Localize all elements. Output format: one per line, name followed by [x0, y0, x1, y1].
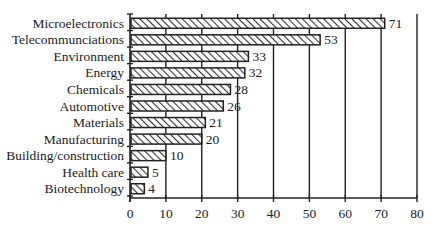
category-label: Environment: [54, 49, 125, 64]
value-label: 32: [249, 65, 262, 80]
category-label: Chemicals: [67, 82, 124, 97]
category-label: Manufacturing: [44, 132, 124, 147]
horizontal-bar-chart: MicroelectronicsTelecommunciationsEnviro…: [0, 0, 434, 233]
bar: [131, 101, 223, 111]
value-label: 26: [227, 99, 241, 114]
x-tick-label: 30: [231, 206, 245, 221]
x-tick-label: 70: [374, 206, 388, 221]
bar: [131, 184, 144, 194]
value-label: 28: [234, 82, 248, 97]
value-label: 71: [389, 16, 403, 31]
bar: [131, 118, 205, 128]
x-tick-label: 10: [159, 206, 173, 221]
category-label: Building/construction: [6, 148, 124, 163]
bar: [131, 51, 248, 61]
x-tick-label: 20: [195, 206, 209, 221]
bar: [131, 151, 166, 161]
category-label: Materials: [73, 115, 124, 130]
category-label: Microelectronics: [33, 16, 124, 31]
bars: [131, 18, 385, 193]
category-label: Health care: [62, 165, 124, 180]
category-label: Biotechnology: [45, 181, 125, 196]
value-label: 4: [148, 181, 155, 196]
bar: [131, 68, 245, 78]
bar: [131, 167, 148, 177]
value-label: 5: [152, 165, 159, 180]
x-tick-label: 60: [339, 206, 353, 221]
x-tick-label: 80: [410, 206, 424, 221]
x-tick-label: 50: [303, 206, 317, 221]
x-tick-labels: 01020304050607080: [127, 206, 424, 221]
value-label: 33: [252, 49, 266, 64]
value-label: 21: [209, 115, 223, 130]
value-label: 20: [206, 132, 220, 147]
category-labels: MicroelectronicsTelecommunciationsEnviro…: [6, 16, 124, 196]
bar: [131, 18, 385, 28]
value-label: 10: [170, 148, 184, 163]
value-label: 53: [324, 32, 338, 47]
category-label: Energy: [85, 65, 124, 80]
category-label: Automotive: [60, 99, 125, 114]
bar: [131, 35, 320, 45]
x-tick-label: 0: [127, 206, 134, 221]
category-label: Telecommunciations: [12, 32, 124, 47]
bar: [131, 134, 202, 144]
bar: [131, 84, 230, 94]
x-tick-label: 40: [267, 206, 281, 221]
